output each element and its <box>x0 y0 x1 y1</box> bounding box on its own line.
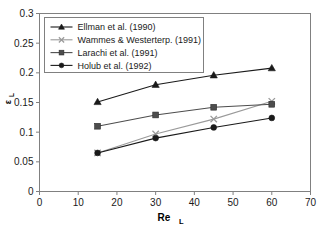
marker-circle <box>211 125 217 131</box>
marker-square <box>95 123 101 129</box>
chart-container: 010203040506070 00.050.10.150.20.250.3 E… <box>0 0 326 227</box>
marker-square <box>211 104 217 110</box>
y-tick-label: 0.05 <box>14 156 34 167</box>
marker-circle <box>59 63 64 68</box>
marker-square <box>153 112 159 118</box>
x-tick-label: 70 <box>305 197 317 208</box>
y-tick-label: 0.3 <box>20 8 34 19</box>
y-tick-label: 0.1 <box>20 127 34 138</box>
legend-label: Holub et al. (1992) <box>78 61 152 71</box>
legend-label: Wammes & Westerterp. (1991) <box>78 35 202 45</box>
marker-circle <box>153 135 159 141</box>
chart-legend: Ellman et al. (1990)Wammes & Westerterp.… <box>45 18 204 73</box>
y-tick-label: 0 <box>28 186 34 197</box>
x-tick-label: 50 <box>228 197 240 208</box>
marker-circle <box>95 150 101 156</box>
marker-circle <box>269 115 275 121</box>
line-chart: 010203040506070 00.050.10.150.20.250.3 E… <box>0 0 326 227</box>
marker-square <box>59 50 64 55</box>
x-tick-label: 10 <box>73 197 85 208</box>
x-tick-label: 60 <box>266 197 278 208</box>
x-tick-label: 40 <box>189 197 201 208</box>
legend-label: Ellman et al. (1990) <box>78 22 156 32</box>
x-tick-label: 20 <box>111 197 123 208</box>
y-tick-label: 0.15 <box>14 97 34 108</box>
legend-label: Larachi et al. (1991) <box>78 48 158 58</box>
y-tick-label: 0.2 <box>20 67 34 78</box>
marker-square <box>269 101 275 107</box>
y-tick-label: 0.25 <box>14 38 34 49</box>
x-axis-title-subscript: L <box>179 217 184 226</box>
y-axis-title-subscript: L <box>8 93 15 97</box>
x-axis-title-main: Re <box>158 212 171 223</box>
y-axis-title-main: ε <box>3 99 13 104</box>
x-tick-label: 0 <box>37 197 43 208</box>
x-tick-label: 30 <box>150 197 162 208</box>
